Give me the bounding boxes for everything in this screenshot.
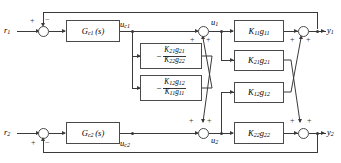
process-block-k12g12[interactable]: K12g12 xyxy=(234,82,284,103)
output-junction-y2 xyxy=(298,128,309,139)
signal-label-uc2: uc2 xyxy=(120,139,130,148)
branch-dot-uc2 xyxy=(131,132,134,135)
sign-minus-junction2: − xyxy=(45,139,50,147)
signal-label-u2: u2 xyxy=(211,136,218,145)
process-k12g12-label: K12g12 xyxy=(248,88,270,97)
controller-gc2-label: Gc2 (s) xyxy=(82,129,105,138)
feedback-path-y2-riser xyxy=(43,141,44,152)
block-diagram-canvas: r1 + − Gc1 (s) uc1 − K21g21 K22g22 xyxy=(0,0,341,163)
feedback-path-y2-drop xyxy=(317,133,318,152)
sign-plus-u2-right: + xyxy=(207,117,212,125)
input-junction-u2 xyxy=(198,128,209,139)
feedback-path-y2 xyxy=(43,152,318,153)
process-k22g22-label: K22g22 xyxy=(248,129,270,138)
sign-plus-y2-left: + xyxy=(290,117,295,125)
controller-block-gc2[interactable]: Gc2 (s) xyxy=(66,122,120,144)
wire-u2-branch-up xyxy=(221,92,222,133)
arrow-k21g21-to-y2junction xyxy=(298,119,302,123)
sign-plus-y2-right: + xyxy=(307,117,312,125)
feedback-arrow-y2 xyxy=(41,137,45,141)
arrow-k12g12-to-y1junction xyxy=(299,35,303,39)
sign-plus-u2-left: + xyxy=(189,117,194,125)
process-block-k22g22[interactable]: K22g22 xyxy=(234,122,284,144)
arrow-y2-out xyxy=(321,131,325,135)
signal-label-y2: y2 xyxy=(327,128,334,137)
signal-label-r2: r2 xyxy=(4,128,10,137)
sign-plus-junction2: + xyxy=(31,139,36,147)
process-crossover-wires xyxy=(0,0,341,163)
